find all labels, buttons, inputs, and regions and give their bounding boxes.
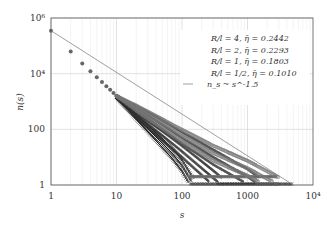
legend-item: R/l = 1/2, η̄ = 0.1010	[210, 69, 297, 78]
y-tick-label: 100	[28, 124, 45, 134]
legend-item: R/l = 1, η̄ = 0.1803	[210, 57, 289, 66]
x-tick-label: 1000	[236, 191, 259, 201]
x-tick-label: 1	[48, 191, 54, 201]
y-axis-ticks: 110010⁴10⁶	[28, 13, 46, 190]
loglog-scatter-chart: 110100100010⁴ 110010⁴10⁶ s n(s) R/l = 4,…	[0, 0, 327, 228]
y-axis-label: n(s)	[15, 93, 25, 111]
legend: R/l = 4, η̄ = 0.2442R/l = 2, η̄ = 0.2293…	[180, 30, 310, 105]
y-tick-label: 1	[39, 180, 45, 190]
x-tick-label: 100	[173, 191, 190, 201]
x-axis-ticks: 110100100010⁴	[48, 191, 321, 201]
legend-item: n_s ~ s^-1.5	[207, 80, 258, 89]
x-tick-label: 10⁴	[305, 191, 320, 201]
x-tick-label: 10	[111, 191, 123, 201]
y-tick-label: 10⁴	[30, 69, 45, 79]
legend-item: R/l = 4, η̄ = 0.2442	[210, 34, 289, 43]
x-axis-label: s	[180, 210, 185, 220]
legend-item: R/l = 2, η̄ = 0.2293	[210, 46, 289, 55]
y-tick-label: 10⁶	[30, 13, 45, 23]
